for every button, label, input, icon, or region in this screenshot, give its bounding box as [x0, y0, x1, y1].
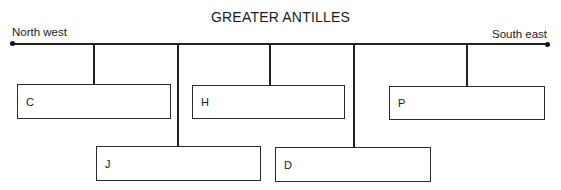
axis-start-dot: [10, 41, 15, 46]
box-j-label: J: [105, 158, 111, 170]
south-east-label: South east: [492, 28, 547, 40]
north-west-label: North west: [12, 26, 67, 38]
connector-p: [466, 45, 468, 86]
box-c: C: [17, 84, 171, 119]
box-c-label: C: [26, 96, 34, 108]
box-p: P: [389, 86, 545, 120]
connector-j: [177, 44, 179, 146]
box-h-label: H: [201, 96, 209, 108]
box-d-label: D: [284, 159, 292, 171]
axis-end-dot: [545, 42, 550, 47]
box-h: H: [192, 85, 345, 119]
box-j: J: [96, 146, 261, 181]
box-p-label: P: [398, 97, 405, 109]
box-d: D: [275, 147, 431, 182]
connector-c: [93, 44, 95, 84]
connector-d: [353, 45, 355, 147]
diagram-title: GREATER ANTILLES: [0, 9, 561, 25]
connector-h: [269, 44, 271, 85]
